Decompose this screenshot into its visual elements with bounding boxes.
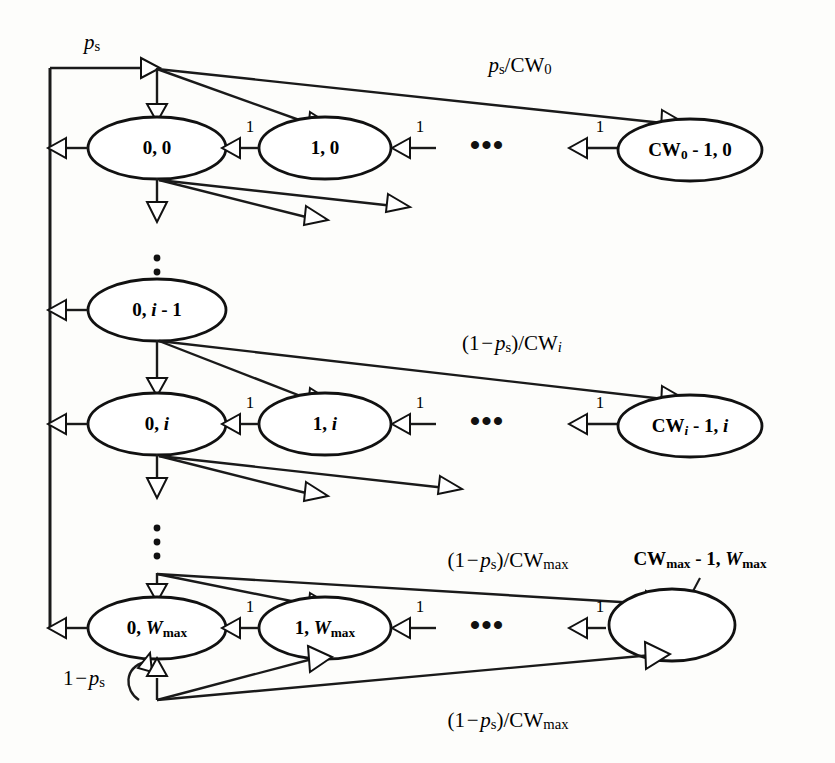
rowi-ellipsis: ••• — [470, 404, 505, 437]
node-1-i-label: 1, i — [313, 413, 338, 434]
node-0-wmax: 0, Wmax — [88, 597, 226, 659]
edge-n0i1-to-spine — [48, 300, 88, 320]
label-one-minus-ps-over-cwmax-top: (1 − ps)/CWmax — [447, 548, 569, 573]
edge-n00-diag-long — [159, 180, 410, 212]
edge-into-n10-right — [392, 138, 436, 158]
edge-n0i-down — [147, 454, 167, 498]
label-ps-over-cw0: ps/CW0 — [486, 53, 551, 78]
node-1-0: 1, 0 — [259, 117, 391, 179]
vertical-ellipsis-lower — [154, 525, 161, 560]
node-0-0-label: 0, 0 — [143, 137, 172, 158]
label-one-minus-ps-over-cwmax-bottom: (1 − ps)/CWmax — [447, 708, 569, 733]
edge-ncw0-left — [569, 138, 618, 158]
label-one-rowwmax-a: 1 — [246, 597, 255, 616]
node-cw0-minus-1-0: CW0 - 1, 0 — [618, 119, 762, 181]
edge-ncwmax-left — [569, 618, 606, 638]
edge-n10-to-n00 — [222, 138, 259, 158]
label-one-row0-a: 1 — [246, 117, 255, 136]
node-cwi-minus-1-i: CWi - 1, i — [618, 395, 762, 457]
node-0-0: 0, 0 — [88, 117, 226, 179]
node-1-i: 1, i — [259, 393, 391, 455]
node-0-i-minus-1-label: 0, i - 1 — [132, 299, 182, 320]
edge-n1i-to-n0i — [222, 414, 259, 434]
label-one-rowi-c: 1 — [596, 393, 605, 412]
edge-into-n1i-right — [392, 414, 436, 434]
label-cwmax-minus-1-wmax: CWmax - 1, Wmax — [633, 548, 767, 571]
row0-ellipsis: ••• — [470, 128, 505, 161]
edge-n00-to-spine — [48, 138, 88, 158]
node-1-wmax: 1, Wmax — [259, 597, 391, 659]
edge-ncwi-left — [569, 414, 618, 434]
rowwmax-ellipsis: ••• — [470, 608, 505, 641]
label-one-minus-ps: 1 − ps — [63, 666, 105, 691]
edge-n0i1-down — [147, 340, 167, 396]
edge-n0i-to-spine — [48, 414, 88, 434]
edge-n0wmax-to-spine — [48, 618, 88, 638]
edge-into-n1wmax-right — [392, 618, 436, 638]
label-one-row0-b: 1 — [416, 117, 425, 136]
label-one-rowi-b: 1 — [416, 393, 425, 412]
markov-chain-diagram: ps ps/CW0 0, 0 1, 0 1 — [0, 0, 835, 763]
node-cwmax-minus-1-wmax — [609, 589, 735, 661]
edge-hub-to-n00 — [147, 68, 167, 122]
node-0-i: 0, i — [88, 393, 226, 455]
label-ps-top: ps — [82, 30, 101, 55]
state-diagram-canvas: ps ps/CW0 0, 0 1, 0 1 — [0, 0, 835, 763]
label-one-rowwmax-b: 1 — [416, 597, 425, 616]
edge-hub-wmax-to-ncwmax — [157, 574, 670, 610]
label-one-minus-ps-over-cwi: (1 − ps)/CWi — [462, 331, 562, 356]
edge-n1wmax-to-n0wmax — [222, 618, 259, 638]
label-one-rowwmax-c: 1 — [596, 597, 605, 616]
label-one-rowi-a: 1 — [246, 393, 255, 412]
edge-bottomhub-to-ncwmax — [157, 642, 670, 700]
node-1-0-label: 1, 0 — [311, 137, 340, 158]
label-one-row0-c: 1 — [596, 117, 605, 136]
edge-n0i-diag-mid — [159, 456, 328, 501]
node-0-i-minus-1: 0, i - 1 — [88, 279, 226, 341]
node-cw0-minus-1-0-label: CW0 - 1, 0 — [648, 139, 732, 162]
node-0-i-label: 0, i — [145, 413, 170, 434]
edge-n00-diag-mid — [159, 180, 328, 225]
node-cwi-minus-1-i-label: CWi - 1, i — [652, 415, 729, 438]
edge-n00-down — [147, 178, 167, 222]
